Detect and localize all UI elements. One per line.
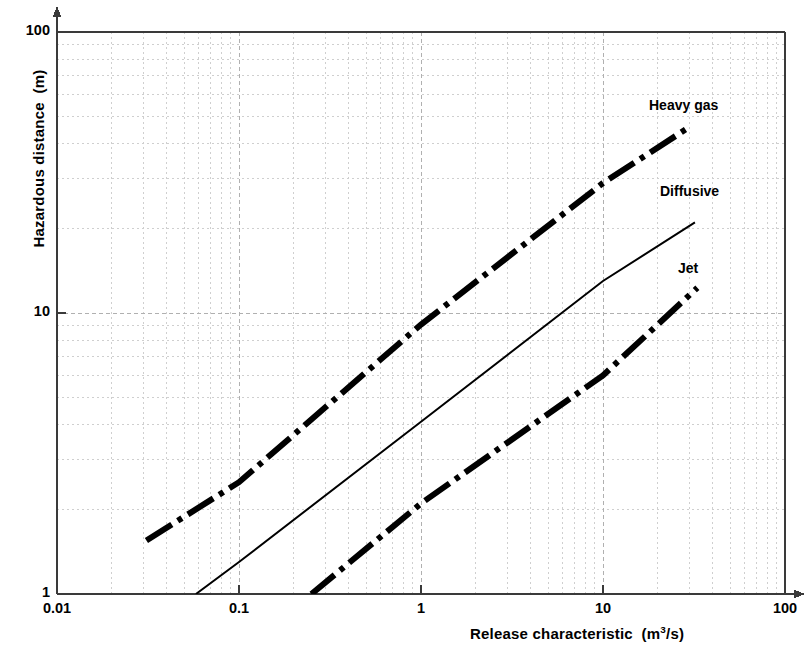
y-tick-label: 1 (2, 584, 50, 600)
x-tick-label: 0.01 (37, 600, 77, 616)
y-axis-units: (m) (30, 70, 47, 94)
x-tick-label: 0.1 (219, 600, 259, 616)
x-units-prefix: (m (642, 625, 661, 642)
x-tick-label: 10 (583, 600, 623, 616)
x-axis-title: Release characteristic (m3/s) (470, 625, 684, 642)
x-units-suffix: /s) (666, 625, 684, 642)
y-tick-label: 10 (2, 303, 50, 319)
chart-figure: Hazardous distance (m) Release character… (0, 0, 805, 652)
curve-label-diffusive: Diffusive (660, 183, 719, 199)
curve-label-heavy-gas: Heavy gas (649, 97, 718, 113)
curve-label-jet: Jet (678, 260, 698, 276)
y-axis-title-text: Hazardous distance (30, 102, 47, 247)
x-tick-label: 100 (765, 600, 805, 616)
x-tick-label: 1 (401, 600, 441, 616)
y-axis-title: Hazardous distance (m) (30, 29, 47, 289)
y-tick-label: 100 (2, 22, 50, 38)
x-axis-title-text: Release characteristic (470, 625, 633, 642)
x-axis-units: (m3/s) (642, 625, 685, 642)
